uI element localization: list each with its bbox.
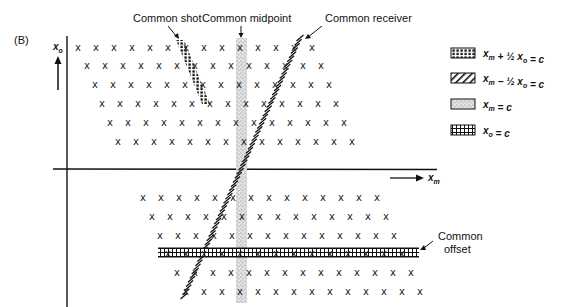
trace-marker: x	[308, 79, 314, 90]
common-offset-pointer-icon	[424, 241, 433, 248]
trace-marker: x	[203, 211, 209, 222]
trace-marker: x	[111, 42, 117, 53]
trace-marker: x	[279, 98, 285, 109]
trace-marker: x	[237, 248, 243, 259]
trace-marker: x	[179, 117, 185, 128]
trace-marker: x	[161, 117, 167, 128]
trace-marker: x	[257, 211, 263, 222]
trace-marker: x	[291, 286, 297, 297]
trace-marker: x	[135, 98, 141, 109]
legend-label: xm − ½ xo = c	[482, 73, 545, 90]
common-midpoint-label: Common midpoint	[202, 12, 291, 24]
trace-marker: x	[349, 136, 355, 147]
trace-marker: x	[187, 136, 193, 147]
trace-marker: x	[165, 42, 171, 53]
legend-item: xm + ½ xo = c	[451, 48, 545, 65]
trace-marker: x	[355, 230, 361, 241]
trace-marker: x	[237, 42, 243, 53]
trace-marker: x	[282, 267, 288, 278]
trace-marker: x	[266, 192, 272, 203]
trace-marker: x	[381, 248, 387, 259]
trace-marker: x	[219, 248, 225, 259]
panel-label: (B)	[14, 34, 29, 46]
trace-marker: x	[374, 192, 380, 203]
trace-marker: x	[125, 117, 131, 128]
trace-marker: x	[201, 42, 207, 53]
trace-marker: x	[318, 60, 324, 71]
trace-marker: x	[167, 211, 173, 222]
trace-marker: x	[300, 60, 306, 71]
trace-marker: x	[309, 286, 315, 297]
trace-marker: x	[215, 117, 221, 128]
trace-marker: x	[293, 211, 299, 222]
trace-marker: x	[381, 286, 387, 297]
common-midpoint-arrowhead-icon	[239, 33, 244, 38]
trace-marker: x	[365, 211, 371, 222]
trace-marker: x	[326, 79, 332, 90]
trace-marker: x	[128, 79, 134, 90]
legend-item: xm = c	[451, 99, 512, 113]
trace-marker: x	[372, 267, 378, 278]
trace-marker: x	[93, 42, 99, 53]
trace-marker: x	[295, 136, 301, 147]
trace-marker: x	[169, 136, 175, 147]
trace-marker: x	[228, 60, 234, 71]
trace-marker: x	[282, 60, 288, 71]
trace-marker: x	[243, 98, 249, 109]
common-receiver-label: Common receiver	[325, 12, 412, 24]
trace-marker: x	[151, 136, 157, 147]
trace-marker: x	[248, 192, 254, 203]
trace-marker: x	[309, 42, 315, 53]
trace-marker: x	[218, 79, 224, 90]
trace-marker: x	[171, 98, 177, 109]
trace-marker: x	[354, 267, 360, 278]
trace-marker: x	[194, 192, 200, 203]
trace-marker: x	[102, 60, 108, 71]
trace-marker: x	[175, 230, 181, 241]
trace-marker: x	[115, 136, 121, 147]
trace-marker: x	[399, 286, 405, 297]
trace-marker: x	[345, 248, 351, 259]
trace-marker: x	[197, 117, 203, 128]
trace-marker: x	[210, 60, 216, 71]
trace-marker: x	[193, 230, 199, 241]
trace-marker: x	[233, 117, 239, 128]
trace-marker: x	[373, 230, 379, 241]
trace-marker: x	[183, 248, 189, 259]
trace-marker: x	[327, 286, 333, 297]
trace-marker: x	[241, 136, 247, 147]
common-receiver-pointer-icon	[308, 26, 322, 37]
trace-marker: x	[192, 267, 198, 278]
trace-marker: x	[183, 42, 189, 53]
trace-marker: x	[143, 117, 149, 128]
trace-marker: x	[290, 79, 296, 90]
cmp-geometry-diagram: (B) xo xm xxxxxxxxxxxxxxxxxxxxxxxxxx	[0, 0, 566, 307]
trace-marker: x	[259, 136, 265, 147]
trace-marker: x	[129, 42, 135, 53]
diagram-canvas: (B) xo xm xxxxxxxxxxxxxxxxxxxxxxxxxx	[0, 0, 566, 307]
trace-marker: x	[147, 42, 153, 53]
trace-marker: x	[146, 79, 152, 90]
trace-marker: x	[138, 60, 144, 71]
trace-marker: x	[117, 98, 123, 109]
trace-marker: x	[269, 117, 275, 128]
trace-marker: x	[313, 136, 319, 147]
trace-marker: x	[399, 248, 405, 259]
trace-marker: x	[320, 192, 326, 203]
trace-marker: x	[156, 60, 162, 71]
trace-marker: x	[273, 248, 279, 259]
trace-marker: x	[319, 230, 325, 241]
trace-marker: x	[300, 267, 306, 278]
common-offset-label-line2: offset	[444, 243, 471, 255]
trace-marker: x	[192, 60, 198, 71]
trace-marker: x	[336, 267, 342, 278]
common-offset-band	[158, 248, 419, 257]
trace-marker: x	[205, 136, 211, 147]
trace-marker: x	[212, 192, 218, 203]
trace-marker: x	[275, 211, 281, 222]
xm-axis-arrow-icon	[390, 175, 424, 182]
legend-swatch-stipple	[451, 99, 475, 109]
trace-marker: x	[287, 117, 293, 128]
legend-swatch-dots-dense	[451, 48, 475, 58]
trace-marker: x	[174, 267, 180, 278]
